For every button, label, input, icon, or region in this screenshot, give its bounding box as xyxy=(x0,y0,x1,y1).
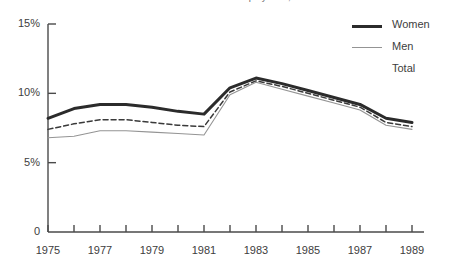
legend-item-total: Total xyxy=(352,60,450,82)
legend-swatch-men-icon xyxy=(352,47,382,48)
series-line-women xyxy=(48,78,412,122)
y-axis-tick-label: 0 xyxy=(2,225,40,237)
y-axis-ticks xyxy=(48,24,56,163)
legend-label-women: Women xyxy=(392,18,430,30)
legend-item-men: Men xyxy=(352,38,450,60)
y-axis-tick-label: 15% xyxy=(2,17,40,29)
legend-swatch-women-icon xyxy=(352,25,382,28)
chart-container: Percent of Labor Force in Self-Employmen… xyxy=(0,0,452,272)
x-axis-tick-label: 1983 xyxy=(226,244,286,256)
x-axis-ticks xyxy=(48,225,412,232)
legend-item-women: Women xyxy=(352,16,450,38)
legend-label-men: Men xyxy=(392,40,413,52)
x-axis-tick-label: 1989 xyxy=(382,244,442,256)
x-axis-tick-label: 1981 xyxy=(174,244,234,256)
x-axis-tick-label: 1975 xyxy=(18,244,78,256)
x-axis-tick-label: 1977 xyxy=(70,244,130,256)
x-axis-tick-label: 1987 xyxy=(330,244,390,256)
x-axis-tick-label: 1979 xyxy=(122,244,182,256)
legend-label-total: Total xyxy=(392,62,415,74)
chart-legend: Women Men Total xyxy=(352,16,450,82)
y-axis-tick-label: 5% xyxy=(2,156,40,168)
x-axis-tick-label: 1985 xyxy=(278,244,338,256)
data-series-group xyxy=(48,78,412,138)
series-line-men xyxy=(48,82,412,137)
y-axis-tick-label: 10% xyxy=(2,86,40,98)
